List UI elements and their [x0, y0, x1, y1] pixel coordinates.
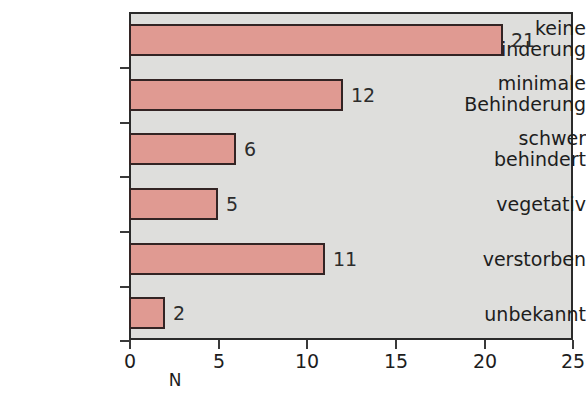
x-axis-tick — [484, 340, 486, 349]
category-label-4: verstorben — [464, 249, 586, 270]
bar-chart: keine Behinderung minimale Behinderung s… — [0, 0, 586, 394]
y-axis-tick — [120, 176, 129, 178]
x-axis-tick-label: 15 — [384, 352, 408, 371]
x-axis-tick-label: 20 — [473, 352, 497, 371]
x-axis-tick — [306, 340, 308, 349]
bar-keine-behinderung — [129, 24, 503, 56]
category-label-3: vegetativ — [464, 194, 586, 215]
bar-schwer-behindert — [129, 133, 236, 165]
x-axis-title-text: N — [169, 372, 182, 389]
x-axis-tick — [218, 340, 220, 349]
bar-unbekannt — [129, 297, 165, 329]
x-axis-tick — [129, 340, 131, 349]
x-axis-tick — [395, 340, 397, 349]
y-axis-tick — [120, 67, 129, 69]
plot-area — [129, 12, 573, 340]
bar-value-label: 11 — [333, 250, 357, 269]
category-label-1: minimale Behinderung — [464, 73, 586, 114]
x-axis-tick-label: 10 — [295, 352, 319, 371]
x-axis-title: N — [0, 372, 586, 389]
category-label-5: unbekannt — [464, 304, 586, 325]
y-axis-tick — [120, 340, 129, 342]
y-axis-tick — [120, 286, 129, 288]
bar-value-label: 12 — [351, 86, 375, 105]
y-axis-tick — [120, 231, 129, 233]
x-axis-tick-label: 0 — [124, 352, 136, 371]
category-label-2: schwer behindert — [464, 128, 586, 169]
bar-value-label: 6 — [244, 140, 256, 159]
x-axis-tick — [572, 340, 574, 349]
bar-value-label: 21 — [511, 31, 535, 50]
bar-minimale-behinderung — [129, 79, 343, 111]
x-axis-tick-label: 5 — [213, 352, 225, 371]
bar-value-label: 5 — [226, 195, 238, 214]
y-axis-tick — [120, 122, 129, 124]
x-axis-tick-label: 25 — [561, 352, 585, 371]
bar-vegetativ — [129, 188, 218, 220]
bar-verstorben — [129, 243, 325, 275]
bar-value-label: 2 — [173, 304, 185, 323]
